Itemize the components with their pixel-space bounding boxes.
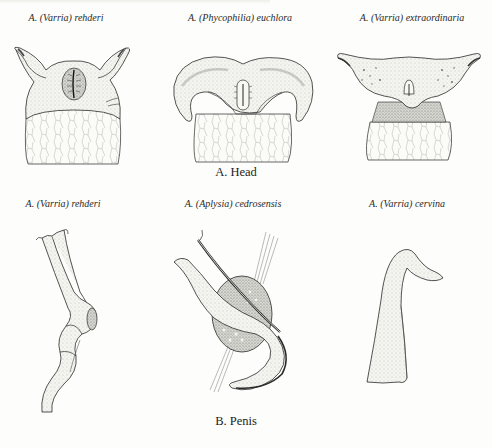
panel-label-head-euchlora: A. (Phycophilia) euchlora (188, 12, 292, 23)
illustration-head-extraordinaria (334, 50, 484, 160)
label-prefix: A. ( (185, 198, 199, 209)
label-species: ) rehderi (69, 12, 104, 23)
label-subgenus: Varria (384, 198, 410, 209)
label-subgenus: Varria (43, 12, 69, 23)
section-title-penis: B. Penis (215, 414, 257, 429)
label-species: ) extraordinaria (400, 12, 464, 23)
label-prefix: A. ( (188, 12, 202, 23)
label-species: ) cedrosensis (229, 198, 281, 209)
illustration-head-rehderi (10, 44, 130, 164)
panel-label-head-rehderi: A. (Varria) rehderi (29, 12, 104, 23)
label-prefix: A. ( (369, 198, 383, 209)
label-species: ) euchlora (251, 12, 292, 23)
panel-label-penis-cervina: A. (Varria) cervina (369, 198, 445, 209)
label-species: ) cervina (409, 198, 445, 209)
illustration-penis-cervina (355, 240, 455, 390)
section-title-head: A. Head (215, 165, 257, 180)
label-prefix: A. ( (26, 198, 40, 209)
panel-label-penis-rehderi: A. (Varria) rehderi (26, 198, 101, 209)
label-subgenus: Phycophilia (202, 12, 250, 23)
panel-label-head-extraordinaria: A. (Varria) extraordinaria (360, 12, 464, 23)
panel-label-penis-cedrosensis: A. (Aplysia) cedrosensis (185, 198, 282, 209)
illustration-penis-rehderi (30, 222, 120, 412)
label-subgenus: Varria (40, 198, 66, 209)
illustration-penis-cedrosensis (170, 222, 310, 402)
label-species: ) rehderi (66, 198, 101, 209)
label-subgenus: Aplysia (199, 198, 229, 209)
label-prefix: A. ( (29, 12, 43, 23)
label-prefix: A. ( (360, 12, 374, 23)
illustration-head-euchlora (168, 52, 318, 162)
label-subgenus: Varria (374, 12, 400, 23)
cropped-running-header (0, 0, 270, 4)
